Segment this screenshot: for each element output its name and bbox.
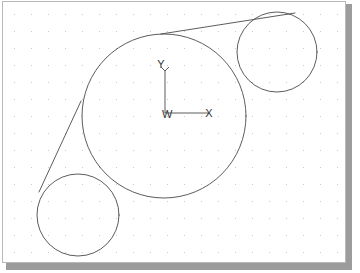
x-axis-label: X	[205, 107, 213, 119]
dot-grid	[3, 2, 346, 263]
drawing-canvas[interactable]: Y X W	[2, 1, 346, 263]
sketch-svg[interactable]: Y X W	[3, 2, 346, 263]
panel-shadow-right	[345, 4, 352, 269]
y-axis-label: Y	[157, 58, 165, 70]
origin-label: W	[162, 108, 173, 120]
cad-sketch-window: Y X W	[0, 0, 360, 273]
panel-shadow-bottom	[6, 263, 352, 270]
